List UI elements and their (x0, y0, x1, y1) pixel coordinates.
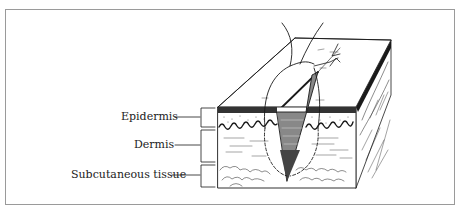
skin-diagram (0, 0, 462, 211)
label-epidermis: Epidermis (121, 111, 178, 123)
label-subcutaneous-tissue: Subcutaneous tissue (71, 169, 186, 181)
label-dermis: Dermis (134, 139, 174, 151)
